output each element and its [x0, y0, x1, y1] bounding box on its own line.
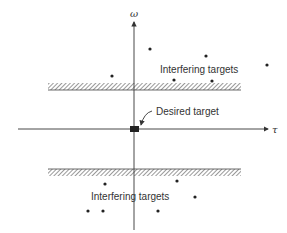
- interfering-target-point: [172, 78, 175, 81]
- tau-axis-label: τ: [272, 124, 278, 135]
- ambiguity-diagram: ω τ Desired target Interfering targets I…: [0, 0, 287, 233]
- interfering-target-point: [86, 209, 89, 212]
- interfering-target-point: [210, 79, 213, 82]
- interfering-target-point: [101, 209, 104, 212]
- interfering-target-point: [110, 74, 113, 77]
- interfering-target-point: [193, 195, 196, 198]
- desired-target-marker: [130, 126, 139, 132]
- interfering-target-point: [148, 47, 151, 50]
- omega-axis-label: ω: [130, 8, 138, 19]
- interfering-target-point: [175, 179, 178, 182]
- interfering-target-point: [156, 209, 159, 212]
- desired-target-pointer: [141, 111, 152, 125]
- interfering-target-point: [265, 63, 268, 66]
- lower-clutter-band: [48, 169, 241, 176]
- desired-target-label: Desired target: [156, 106, 219, 117]
- interfering-target-point: [204, 54, 207, 57]
- upper-clutter-band: [48, 83, 241, 90]
- interfering-target-point: [103, 182, 106, 185]
- interfering-targets-lower-label: Interfering targets: [91, 191, 169, 202]
- interfering-targets-upper-label: Interfering targets: [160, 64, 238, 75]
